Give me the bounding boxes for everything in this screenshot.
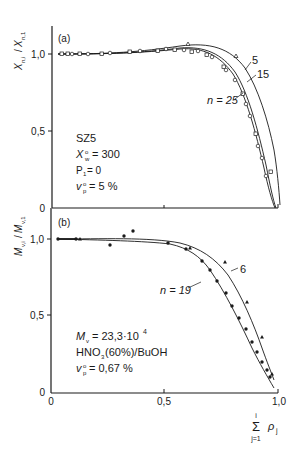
leader-a-15 [247,75,256,82]
svg-text:ρ: ρ [267,420,274,432]
ann-b3-sup: o [83,363,87,369]
svg-text:(60%)/BuOH: (60%)/BuOH [105,346,167,358]
curve-b-6 [58,239,274,380]
ann-a4-sub: p [83,188,87,194]
svg-text:j: j [275,427,278,435]
ylabel-a-sub2: n,1 [20,31,26,40]
ytick-label-b-05: 0,5 [30,310,44,321]
curve-label-b-19: n = 19 [160,284,191,296]
svg-text:i: i [255,412,257,419]
svg-text:= 300: = 300 [92,148,120,160]
panel-b-y-label: M v,i / M v,1 [13,216,26,256]
x-axis-label: i Σ j=1 ρ j [250,412,278,443]
annotation-a-1: SZ5 [76,132,96,144]
svg-text:X: X [13,63,24,71]
svg-text:M: M [13,224,24,233]
svg-text:= 0: = 0 [87,165,102,176]
ann-a4-sup: o [83,181,87,187]
svg-text:P: P [76,165,83,176]
curve-label-a-25: n = 25 [207,94,239,106]
ytick-label-b-0: 0 [39,387,45,398]
panel-a: 1,0 0,5 0 (a) X n,i / X n,1 [13,26,280,214]
xtick-label-0: 0 [48,396,54,407]
svg-text:M: M [76,330,86,342]
svg-text:= 0,67 %: = 0,67 % [89,362,133,374]
ann-a2-sup: o [85,149,89,155]
svg-text:v: v [76,362,83,374]
panel-a-y-label: X n,i / X n,1 [13,31,26,71]
svg-text:4: 4 [143,328,147,335]
panel-a-label: (a) [58,33,70,44]
curve-label-b-6: 6 [240,263,246,275]
curve-label-a-5: 5 [252,54,258,66]
panel-b: 1,0 0,5 0 0 0,5 1,0 (b) M v,i / M v,1 [13,208,286,443]
svg-text:HNO: HNO [76,346,101,358]
ylabel-b-sub2: v,1 [20,216,26,224]
svg-text:Σ: Σ [252,419,260,434]
annotation-b-3: v o p = 0,67 % [76,362,133,376]
svg-text:= 23,3·10: = 23,3·10 [92,330,139,342]
svg-text:M: M [13,247,24,256]
annotation-b-2: HNO 3 (60%)/BuOH [76,346,167,360]
svg-text:v: v [76,180,83,192]
ytick-label-b-1: 1,0 [30,234,44,245]
ytick-label-a-05: 0,5 [31,126,45,137]
ann-a2-sub: w [84,156,90,162]
ytick-label-a-1: 1,0 [31,49,45,60]
annotation-a-2: X o w = 300 [75,148,120,162]
svg-text:j=1: j=1 [250,435,261,443]
ann-b1-sub: v [86,338,89,344]
svg-text:X: X [13,40,24,48]
ylabel-a-slash: / [13,49,24,52]
ylabel-b-slash: / [13,235,24,238]
ylabel-b-sub1: v,i [20,241,26,247]
ann-b3-sub: p [83,370,87,376]
curve-label-a-15: 15 [257,68,269,80]
annotation-a-3: P 1 = 0 [76,165,102,177]
ylabel-a-sub1: n,i [20,57,26,63]
panel-b-label: (b) [58,217,70,228]
annotation-a-4: v o p = 5 % [76,180,118,194]
leader-b-6 [231,268,238,271]
figure: 1,0 0,5 0 (a) X n,i / X n,1 [0,0,299,458]
xtick-label-05: 0,5 [157,396,171,407]
svg-text:X: X [75,148,84,160]
leader-a-5 [245,62,251,70]
ytick-label-a-0: 0 [39,203,45,214]
annotation-b-1: M v = 23,3·10 4 [76,328,147,344]
xtick-label-1: 1,0 [272,396,286,407]
svg-text:= 5 %: = 5 % [89,180,118,192]
